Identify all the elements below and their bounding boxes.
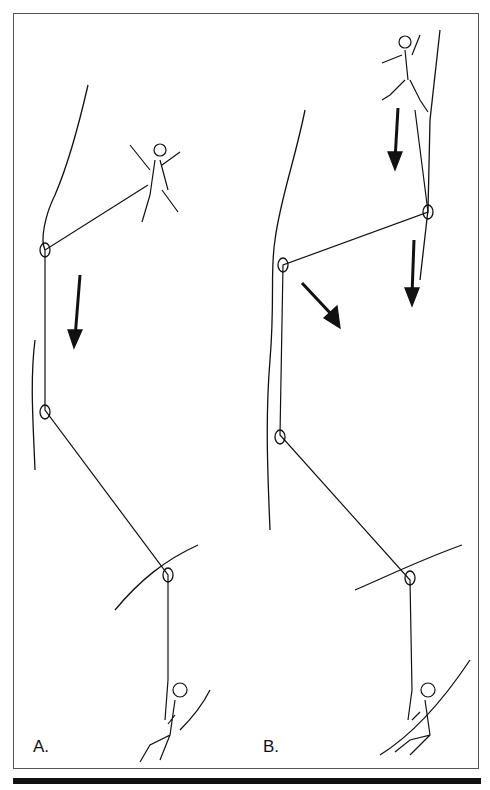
panel-label-a: A. — [33, 737, 49, 757]
arrow-down-icon — [68, 330, 82, 348]
rock-face-b-upper — [270, 110, 305, 360]
panel-label-b: B. — [263, 737, 279, 757]
arrow-down-icon — [388, 152, 402, 170]
belayer-a — [140, 683, 187, 762]
rock-face-b-mid — [267, 360, 270, 530]
ledge-b — [355, 545, 462, 590]
arrow-down-icon — [405, 288, 419, 306]
ledge-a — [115, 545, 198, 610]
climber-a — [130, 144, 180, 222]
rope-a — [45, 185, 168, 720]
climber-b — [382, 35, 428, 112]
rock-face-a-mid — [32, 340, 35, 470]
rope-b — [280, 110, 428, 720]
belayer-b — [395, 683, 435, 755]
rock-face-a-upper — [43, 85, 88, 250]
rock-face-b-right — [420, 30, 440, 280]
rope-diagram — [0, 0, 490, 790]
